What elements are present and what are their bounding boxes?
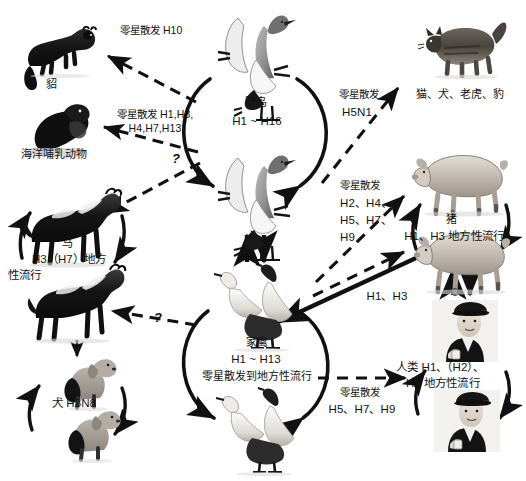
poultry-subtype-line1: H1 ~ H13 bbox=[206, 352, 306, 366]
human-edge-line1: 零星散发 bbox=[324, 386, 396, 399]
cat-icon bbox=[418, 22, 506, 79]
wild-birds-label: 野鸟 bbox=[222, 96, 290, 109]
dog-icon bbox=[68, 411, 120, 463]
edge-wildbirds-to-felines bbox=[322, 88, 398, 183]
h1h3-edge-label: H1、H3 bbox=[356, 289, 418, 303]
pig-subtype: H1、H3 地方性流行 bbox=[390, 229, 518, 243]
pig-edge-line4: H9 bbox=[340, 230, 406, 244]
pig-label: 猪 bbox=[432, 213, 472, 226]
pig-edge-line1: 零星散发 bbox=[340, 179, 406, 192]
marine-edge-label-line1: 零星散发 H1,H3, bbox=[97, 108, 213, 121]
question-mark-bottom: ? bbox=[154, 310, 162, 325]
mink-label: 貂 bbox=[28, 78, 76, 91]
horse-subtype-line2: 性流行 bbox=[8, 268, 102, 282]
human-icon bbox=[432, 300, 498, 362]
horse-label: 马 bbox=[45, 237, 91, 250]
poultry-icon bbox=[216, 388, 294, 476]
wild-bird-icon bbox=[218, 156, 296, 260]
pig-edge-line2: H2、H4、 bbox=[340, 196, 406, 210]
edge-wildbirds-to-mink bbox=[108, 56, 196, 102]
mink-edge-label: 零星散发 H10 bbox=[92, 24, 210, 37]
felines-edge-line2: H5N1 bbox=[326, 105, 388, 119]
pig-edge-line3: H5、H7、 bbox=[340, 213, 406, 227]
felines-edge-line1: 零星散发 bbox=[326, 88, 392, 101]
human-label-line1: 人类 H1、（H2）、 bbox=[396, 360, 516, 374]
horse-subtype-line1: H3（H7）地方 bbox=[8, 252, 130, 266]
question-mark-top: ? bbox=[172, 151, 180, 166]
pig-icon bbox=[412, 156, 508, 217]
human-icon bbox=[434, 390, 500, 452]
poultry-label: 家禽 bbox=[226, 336, 288, 349]
wild-birds-subtype: H1 ~ H16 bbox=[210, 114, 304, 128]
dog-label: 犬 H3N8 bbox=[26, 396, 122, 410]
human-label-line2: H3 地方性流行 bbox=[406, 376, 518, 390]
human-edge-line2: H5、H7、H9 bbox=[318, 402, 406, 416]
edge-wildbirds-to-horse bbox=[106, 163, 200, 213]
marine-edge-label-line2: H4,H7,H13 bbox=[97, 122, 213, 135]
marine-mammals-label: 海洋哺乳动物 bbox=[6, 148, 102, 161]
influenza-transmission-diagram: 貂 零星散发 H10 海洋哺乳动物 零星散发 H1,H3, H4,H7,H13 … bbox=[0, 0, 526, 481]
felines-label: 猫、犬、老虎、豹 bbox=[398, 88, 522, 101]
poultry-subtype-line2: 零星散发到地方性流行 bbox=[186, 370, 328, 383]
